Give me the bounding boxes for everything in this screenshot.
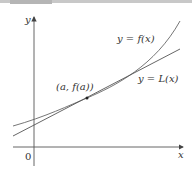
curve-label: y = f(x): [116, 33, 155, 44]
tangent-label: y = L(x): [137, 73, 179, 84]
x-axis-label: x: [178, 149, 184, 160]
point-label: (a, f(a)): [56, 81, 94, 92]
y-axis-label: y: [24, 14, 31, 25]
diagram-canvas: y x 0 y = f(x) y = L(x) (a, f(a)): [0, 0, 192, 172]
tangency-point: [86, 97, 89, 100]
linear-approximation-diagram: y x 0 y = f(x) y = L(x) (a, f(a)): [0, 0, 192, 172]
tangent-line-L: [13, 49, 180, 136]
origin-label: 0: [25, 151, 31, 162]
